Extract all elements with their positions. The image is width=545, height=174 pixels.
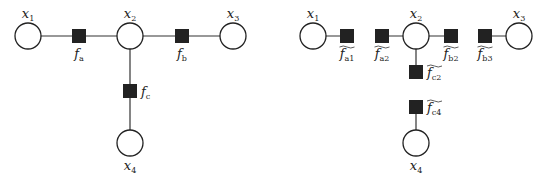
variable-label-x4: x4: [124, 158, 136, 174]
factor-node-fb: [175, 29, 189, 43]
variable-label-x3: x3: [513, 6, 525, 23]
factor-node-fc4: [409, 100, 423, 114]
variable-node-x2: [403, 23, 429, 49]
variable-node-x4: [403, 130, 429, 156]
factor-label-fb2: fb2: [442, 46, 458, 63]
variable-label-x1-subscript: 1: [314, 14, 319, 23]
variable-node-x3: [220, 23, 246, 49]
factor-label-fb: fb: [176, 46, 187, 63]
factor-label-fc-subscript: c: [146, 92, 151, 101]
factor-graph-diagram: x1x2x3x4fafbfc x1x2x3x4fa1fa2fb2fb3fc2fc…: [0, 0, 545, 174]
factor-label-fc4: fc4: [426, 100, 441, 117]
factor-label-fa-subscript: a: [79, 54, 84, 63]
factor-node-fa1: [340, 29, 354, 43]
factor-label-fc4-subscript: c4: [432, 108, 442, 117]
factor-label-fb-subscript: b: [182, 54, 187, 63]
variable-label-x4-subscript: 4: [131, 166, 136, 174]
factor-label-fc2-subscript: c2: [432, 73, 442, 82]
factor-label-fa1: fa1: [339, 46, 355, 63]
variable-node-x1: [300, 23, 326, 49]
factor-label-fa: fa: [73, 46, 84, 63]
factor-label-fc: fc: [140, 84, 151, 101]
factor-node-fa2: [375, 29, 389, 43]
factor-label-fc2: fc2: [426, 65, 441, 82]
left-factor-graph: x1x2x3x4fafbfc: [15, 6, 246, 174]
variable-label-x2-subscript: 2: [131, 14, 136, 23]
variable-node-x2: [117, 23, 143, 49]
variable-label-x4: x4: [410, 158, 422, 174]
variable-label-x1-subscript: 1: [29, 14, 34, 23]
factor-label-fa1-subscript: a1: [344, 54, 354, 63]
factor-node-fb3: [478, 29, 492, 43]
variable-label-x2: x2: [124, 6, 136, 23]
factor-node-fc2: [409, 65, 423, 79]
variable-label-x3-subscript: 3: [234, 14, 239, 23]
variable-label-x1: x1: [22, 6, 34, 23]
factor-node-fc: [123, 84, 137, 98]
variable-label-x4-subscript: 4: [417, 166, 422, 174]
factor-label-fa2-subscript: a2: [379, 54, 389, 63]
factor-node-fb2: [444, 29, 458, 43]
factor-label-fb2-subscript: b2: [448, 54, 458, 63]
variable-label-x2-subscript: 2: [417, 14, 422, 23]
variable-node-x3: [506, 23, 532, 49]
variable-label-x2: x2: [410, 6, 422, 23]
right-factor-graph: x1x2x3x4fa1fa2fb2fb3fc2fc4: [300, 6, 532, 174]
variable-label-x3: x3: [227, 6, 239, 23]
variable-label-x3-subscript: 3: [520, 14, 525, 23]
factor-node-fa: [72, 29, 86, 43]
variable-node-x1: [15, 23, 41, 49]
variable-node-x4: [117, 130, 143, 156]
variable-label-x1: x1: [307, 6, 319, 23]
factor-label-fb3-subscript: b3: [482, 54, 492, 63]
factor-label-fb3: fb3: [476, 46, 492, 63]
factor-label-fa2: fa2: [374, 46, 390, 63]
